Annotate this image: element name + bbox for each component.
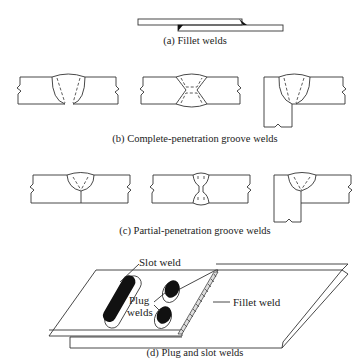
caption-a: (a) Fillet welds <box>163 35 227 47</box>
partial-penetration-single-v <box>30 173 131 204</box>
caption-c: (c) Partial-penetration groove welds <box>119 225 270 237</box>
complete-penetration-double-v <box>140 74 241 107</box>
label-slot-weld: Slot weld <box>139 256 181 268</box>
label-fillet-weld: Fillet weld <box>233 296 281 308</box>
caption-b: (b) Complete-penetration groove welds <box>112 133 277 145</box>
plug-slot-assembly <box>49 264 348 348</box>
caption-d: (d) Plug and slot welds <box>147 347 244 359</box>
partial-penetration-t-joint <box>274 173 352 223</box>
label-welds: welds <box>127 306 153 318</box>
plug-weld-lower <box>151 304 175 331</box>
complete-penetration-t-joint <box>264 74 346 127</box>
fillet-weld-lap-joint <box>138 19 283 31</box>
complete-penetration-single-v <box>17 74 119 104</box>
partial-penetration-double-v <box>150 173 251 205</box>
weld-types-diagram: (a) Fillet welds (b) Complete-penetratio… <box>0 0 354 361</box>
plug-weld-upper <box>159 278 183 305</box>
label-plug: Plug <box>129 294 150 306</box>
